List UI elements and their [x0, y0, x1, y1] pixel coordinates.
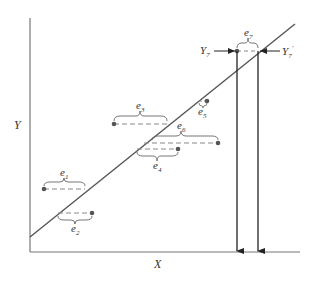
x-axis-label: X	[154, 258, 161, 270]
label-e3: e3	[136, 100, 144, 114]
regression-line	[30, 24, 295, 237]
label-e5: e5	[198, 106, 206, 120]
y-axis-label: Y	[14, 119, 21, 131]
label-e2: e2	[71, 223, 79, 237]
regression-diagram	[0, 0, 315, 281]
label-e7: e7	[244, 27, 252, 41]
residual-e2	[58, 211, 94, 224]
label-e1: e1	[60, 167, 68, 181]
label-y7: Y7	[200, 45, 210, 59]
label-y7-hat: Y7′	[282, 45, 293, 60]
residual-e7	[214, 38, 280, 251]
label-e4: e4	[153, 160, 161, 174]
label-e6: e6	[177, 120, 185, 134]
residual-e4	[137, 147, 180, 161]
